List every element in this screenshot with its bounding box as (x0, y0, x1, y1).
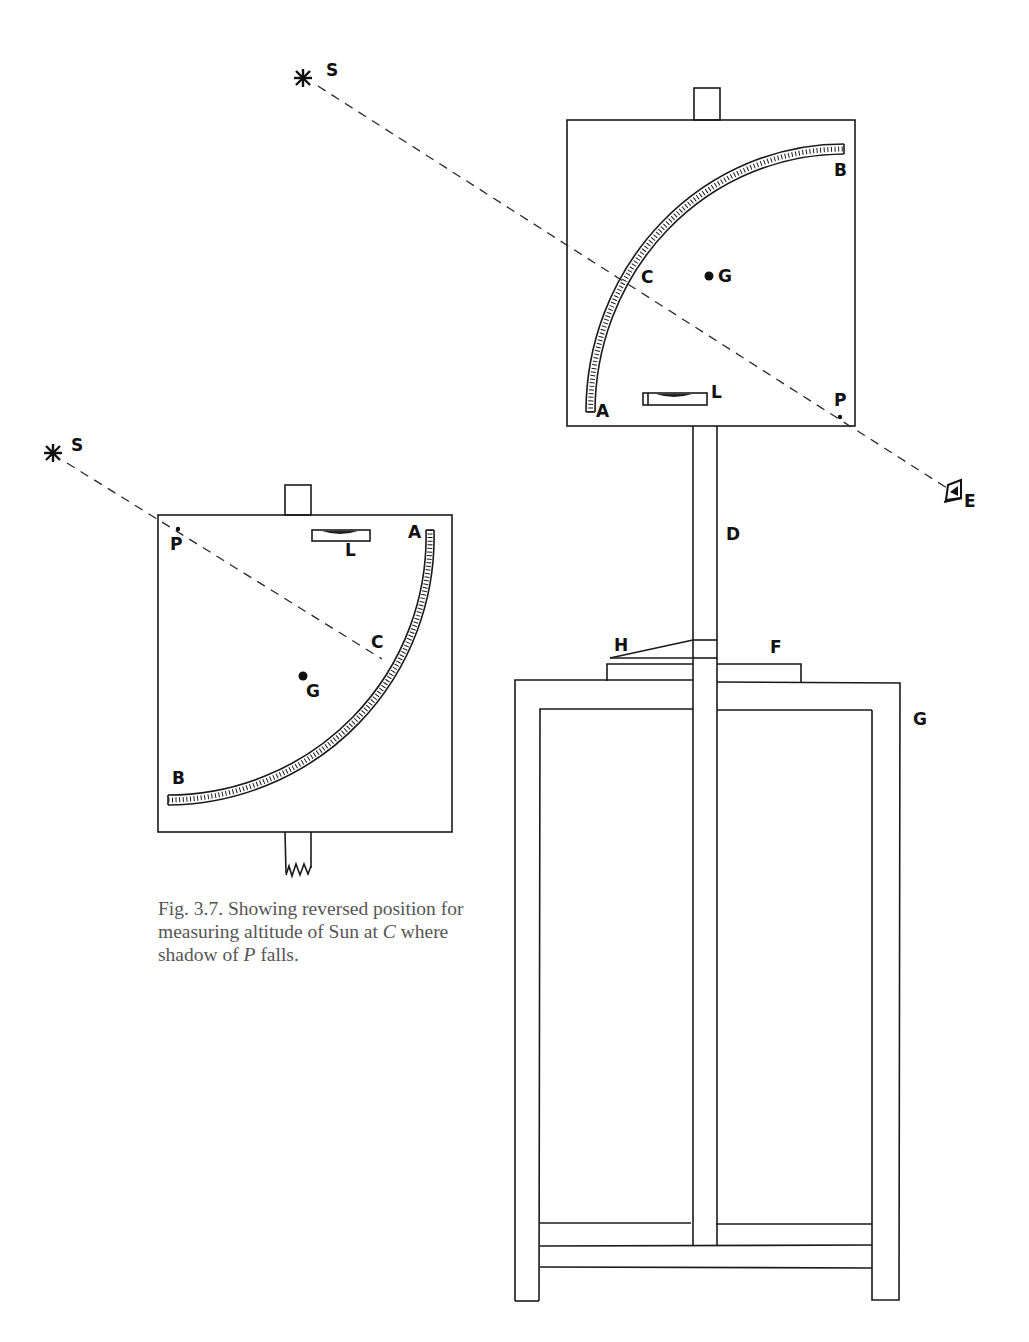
label-l: L (711, 382, 722, 402)
label-g: G (718, 266, 732, 286)
label-e: E (964, 491, 976, 511)
label-p: P (170, 534, 182, 554)
caption-var-c: C (383, 921, 396, 942)
upright-quadrant: G C B A L P S E (294, 60, 976, 1301)
sun-icon (294, 69, 312, 87)
label-c: C (641, 267, 653, 287)
label-s: S (326, 60, 338, 80)
plumb-center-dot (299, 672, 308, 681)
label-b: B (834, 160, 847, 180)
graduated-arc (586, 144, 844, 412)
reversed-quadrant: A B C G L P S (44, 435, 452, 876)
plumb-center-dot (705, 272, 714, 281)
broken-post (285, 832, 311, 876)
top-knob (694, 88, 720, 120)
top-knob (285, 485, 311, 515)
shadow-line (67, 463, 382, 659)
label-c: C (371, 632, 383, 652)
label-p: P (834, 390, 846, 410)
spirit-level (312, 530, 370, 541)
label-a: A (596, 401, 610, 421)
graduated-arc (168, 530, 434, 805)
label-b: B (172, 768, 185, 788)
label-a: A (408, 522, 422, 542)
label-h: H (614, 635, 628, 655)
label-stand-g: G (913, 709, 927, 729)
stand (515, 680, 900, 1301)
caption-var-p: P (244, 944, 256, 965)
caption-text-suffix: falls. (256, 944, 299, 965)
label-g: G (306, 681, 320, 701)
label-l: L (345, 540, 356, 560)
eye-icon (944, 480, 962, 502)
pin-dot (838, 415, 842, 419)
label-d: D (726, 524, 740, 544)
quadrant-diagram: G C B A L P S E (0, 0, 1029, 1342)
label-s: S (71, 435, 83, 455)
figure-caption: Fig. 3.7. Showing reversed position for … (158, 897, 498, 966)
sun-icon (44, 444, 62, 462)
spirit-level (643, 393, 707, 405)
post (693, 426, 717, 1245)
label-f: F (770, 637, 782, 657)
